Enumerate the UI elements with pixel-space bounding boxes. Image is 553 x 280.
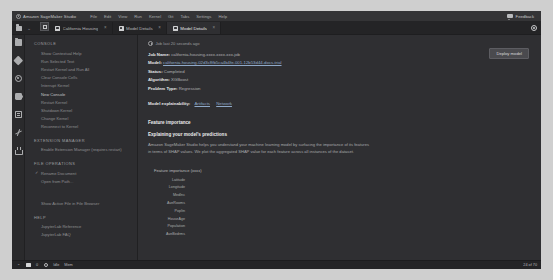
detail-value: Completed: [164, 69, 185, 74]
chart-row: Longitude: [154, 184, 532, 190]
menu-item-git[interactable]: Git: [168, 14, 173, 19]
model-icon: [173, 26, 178, 31]
tabs: California Housing × Model Details × Mod…: [49, 22, 531, 34]
chart-bar-track: [188, 223, 532, 229]
command-item-rename-document[interactable]: Rename Document: [25, 169, 137, 177]
detail-problem-type: Problem Type: Regression: [148, 85, 532, 93]
tab-strip-right: [531, 22, 542, 34]
git-icon[interactable]: [13, 56, 22, 65]
activity-rail: [12, 35, 25, 260]
chart-category-label: Population: [154, 224, 188, 228]
close-icon[interactable]: ×: [158, 26, 161, 31]
model-link[interactable]: california-housing-02d3c8fb5ca4b4fe-001-…: [163, 60, 281, 65]
open-tabs-icon[interactable]: [15, 111, 22, 118]
command-item[interactable]: Change Kernel: [25, 115, 137, 123]
tab-california-housing[interactable]: California Housing ×: [49, 22, 113, 34]
feature-importance-chart: Latitude Longitude MedInc AveRooms Poplt…: [148, 177, 532, 238]
command-item[interactable]: Shutdown Kernel: [25, 106, 137, 114]
menu-item-run[interactable]: Run: [134, 14, 142, 19]
chevron-down-icon[interactable]: ⌄: [27, 26, 31, 31]
model-icon: [119, 26, 124, 31]
running-terminals-icon[interactable]: [15, 75, 22, 82]
model-details-content: Job last 20 seconds ago Job Name: califo…: [138, 35, 541, 260]
link-artifacts[interactable]: Artifacts: [194, 101, 210, 106]
explain-subheader: Explaining your model's predictions: [148, 132, 532, 137]
menu-bar: Amazon SageMaker Studio File Edit View R…: [12, 11, 541, 22]
chart-bar-track: [188, 184, 532, 190]
chart-bar-track: [188, 177, 532, 183]
panel-spacer: [25, 185, 137, 199]
tab-strip: ⌄ California Housing × Model Details × M…: [12, 22, 541, 35]
chart-category-label: Latitude: [154, 178, 188, 182]
detail-value: Regression: [179, 86, 201, 91]
detail-algorithm: Algorithm: XGBoost: [148, 76, 532, 84]
chart-row: Popltn: [154, 208, 532, 214]
sagemaker-components-icon[interactable]: [15, 129, 22, 136]
detail-model-explainability: Model explainability: Artifacts Network: [148, 100, 532, 108]
command-item[interactable]: Show Contextual Help: [25, 49, 137, 57]
command-item-show-active-file[interactable]: Show Active File in File Browser: [25, 199, 137, 207]
tab-strip-left: ⌄: [12, 22, 38, 34]
explain-body-text: Amazon SageMaker Studio helps you unders…: [148, 141, 370, 155]
detail-key: Algorithm:: [148, 77, 170, 82]
menu-item-tabs[interactable]: Tabs: [180, 14, 189, 19]
section-title-file-operations: FILE OPERATIONS: [25, 161, 137, 169]
tab-model-details-1[interactable]: Model Details ×: [113, 22, 167, 34]
command-item[interactable]: Reconnect to Kernel: [25, 123, 137, 131]
command-item[interactable]: Restart Kernel: [25, 98, 137, 106]
chart-row: AveBedrms: [154, 231, 532, 237]
detail-key: Model explainability:: [148, 101, 190, 106]
help-item-jupyterlab-reference[interactable]: JupyterLab Reference: [25, 223, 137, 231]
close-icon[interactable]: ×: [104, 26, 107, 31]
menu-item-help[interactable]: Help: [218, 14, 227, 19]
kernel-status-icon[interactable]: [43, 263, 48, 268]
file-browser-toggle-icon[interactable]: [16, 26, 22, 31]
command-item[interactable]: Clear Console Cells: [25, 74, 137, 82]
chart-bar-track: [188, 192, 532, 198]
deploy-model-button[interactable]: Deploy model: [489, 48, 529, 59]
experiments-icon[interactable]: [15, 147, 22, 154]
chart-category-label: Popltn: [154, 209, 188, 213]
chart-row: Latitude: [154, 177, 532, 183]
link-network[interactable]: Network: [216, 101, 232, 106]
job-timestamp-row: Job last 20 seconds ago: [148, 41, 532, 46]
notebook-status-icon[interactable]: [26, 263, 31, 268]
command-item-enable-extension-manager[interactable]: Enable Extension Manager (requires resta…: [25, 146, 137, 154]
terminals-count[interactable]: 0: [36, 263, 38, 267]
menu-item-kernel[interactable]: Kernel: [149, 14, 161, 19]
launcher-button[interactable]: [40, 22, 49, 31]
menu-item-file[interactable]: File: [90, 14, 97, 19]
command-item[interactable]: Restart Kernel and Run All: [25, 65, 137, 73]
sagemaker-studio-window: Amazon SageMaker Studio File Edit View R…: [12, 11, 541, 269]
tab-label: Model Details: [180, 26, 207, 31]
kernel-label: Idle: [53, 263, 59, 267]
menu-items: File Edit View Run Kernel Git Tabs Setti…: [90, 14, 227, 19]
menu-icon[interactable]: ⌃: [16, 263, 21, 268]
chart-row: Population: [154, 223, 532, 229]
command-item[interactable]: Interrupt Kernel: [25, 82, 137, 90]
notebook-icon: [55, 26, 60, 31]
command-item[interactable]: Run Selected Text: [25, 57, 137, 65]
detail-value: XGBoost: [171, 77, 188, 82]
command-item-new-console[interactable]: New Console: [25, 90, 137, 98]
extensions-icon[interactable]: [15, 93, 22, 100]
chart-bar-track: [188, 200, 532, 206]
section-title-help: HELP: [25, 215, 137, 223]
menu-item-edit[interactable]: Edit: [104, 14, 111, 19]
chart-row: MedInc: [154, 192, 532, 198]
detail-model: Model: california-housing-02d3c8fb5ca4b4…: [148, 59, 532, 67]
command-item-open-from-path[interactable]: Open from Path...: [25, 177, 137, 185]
menu-item-settings[interactable]: Settings: [196, 14, 211, 19]
mode-label: Mem: [64, 263, 72, 267]
help-item-jupyterlab-faq[interactable]: JupyterLab FAQ: [25, 231, 137, 239]
file-browser-icon[interactable]: [15, 39, 22, 46]
gear-icon[interactable]: [531, 25, 538, 32]
close-icon[interactable]: ×: [212, 26, 215, 31]
job-timestamp: Job last 20 seconds ago: [156, 41, 200, 46]
feedback-button[interactable]: Feedback: [516, 14, 534, 19]
chart-row: AveRooms: [154, 200, 532, 206]
workspace: CONSOLE Show Contextual Help Run Selecte…: [12, 35, 541, 260]
menu-item-view[interactable]: View: [118, 14, 127, 19]
tab-model-details-2[interactable]: Model Details ×: [167, 22, 221, 34]
chart-bar-track: [188, 208, 532, 214]
